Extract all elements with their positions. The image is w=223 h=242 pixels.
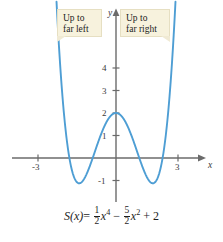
fraction-denominator: 2 [124,216,131,227]
fraction-numerator: 1 [94,206,101,216]
x-tick-label-3: 3 [175,162,180,172]
equation-fraction-one-half: 12 [94,206,101,226]
callout-right-tail [161,36,170,42]
fraction-denominator: 2 [94,216,101,227]
equation-constant: 2 [153,209,159,223]
equation-term2-exponent: 2 [136,208,140,217]
equation-operator-minus: − [113,209,120,223]
callout-left-tail [57,36,66,42]
y-axis [113,9,120,203]
y-axis-label: y [108,8,112,18]
callout-up-to-far-right: Up to far right [120,9,170,37]
callout-up-to-far-left: Up to far left [57,9,102,37]
equation-operator-plus: + [143,209,150,223]
x-tick-label-neg3: -3 [32,162,40,172]
equation-lhs: S(x) [64,209,83,223]
y-tick-label-3: 3 [102,86,107,96]
fraction-numerator: 5 [124,206,131,216]
function-equation: S(x)= 12x4 − 52x2 + 2 [0,206,223,226]
equation-fraction-five-halves: 52 [124,206,131,226]
y-tick-label-4: 4 [102,63,107,73]
y-tick-label-1: 1 [102,131,107,141]
x-axis [12,155,206,162]
y-tick-label-neg1: -1 [98,176,106,186]
equation-equals: = [83,209,90,223]
y-tick-label-2: 2 [102,108,107,118]
graph-figure: Up to far left Up to far right -3 3 4 3 … [0,0,223,242]
x-axis-label: x [208,160,212,170]
equation-term1-exponent: 4 [106,208,110,217]
